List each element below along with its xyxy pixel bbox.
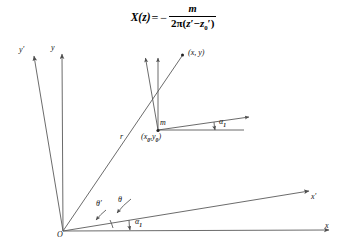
local-axis-x-prime-line (158, 117, 249, 130)
axis-y-prime-line (34, 56, 63, 231)
axis-x-prime-label: x′ (311, 193, 316, 201)
angle-alpha1-origin-label: α1 (135, 218, 142, 228)
angle-theta-prime-label: θ′ (96, 200, 102, 208)
axis-x-label: x (325, 222, 329, 230)
angle-theta-label: θ (118, 196, 122, 204)
axis-y-line (62, 54, 63, 231)
alpha-source-sub: 1 (223, 122, 226, 128)
origin-label: O (57, 231, 63, 239)
arc-theta-prime (96, 210, 106, 220)
radius-label: r (120, 133, 123, 141)
arc-alpha1-origin (129, 220, 130, 230)
alpha-origin-sub: 1 (139, 222, 142, 228)
axis-y-label: y (51, 44, 55, 52)
radius-line (63, 56, 182, 231)
arc-theta-prime-inner (110, 220, 113, 228)
axis-x-prime-line (63, 191, 309, 231)
point-xy-label: (x, y) (188, 49, 204, 57)
coordinate-diagram (0, 0, 348, 244)
axis-x-line (63, 230, 329, 231)
arc-alpha1-source (214, 122, 215, 130)
axis-y-prime-label: y′ (19, 46, 24, 54)
point-xy-marker (181, 54, 184, 57)
source-coords-label: (x0,y0) (141, 133, 161, 143)
source-m-label: m (160, 119, 166, 127)
angle-alpha1-source-label: α1 (219, 118, 226, 128)
coords-close: ) (158, 132, 161, 141)
